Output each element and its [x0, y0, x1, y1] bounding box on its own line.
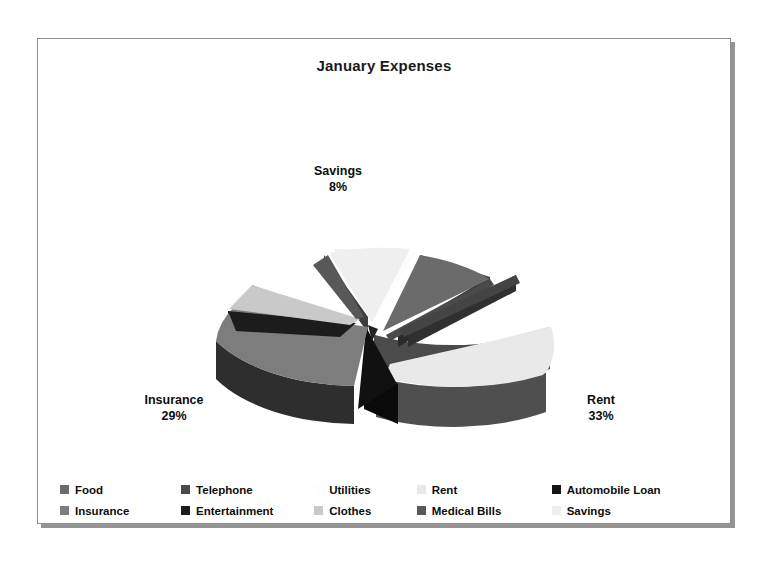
legend-swatch-icon [181, 485, 190, 494]
legend-label: Utilities [329, 484, 371, 496]
slice-label-savings: Savings 8% [283, 163, 393, 195]
legend-swatch-icon [417, 485, 426, 494]
legend-label: Insurance [75, 505, 129, 517]
legend-item-food[interactable]: Food [60, 484, 181, 496]
legend-label: Food [75, 484, 103, 496]
legend-swatch-icon [552, 485, 561, 494]
pie-chart-plot-area: Savings 8% Rent 33% Insurance 29% [38, 79, 730, 479]
legend-item-utilities[interactable]: Utilities [314, 484, 416, 496]
legend-swatch-icon [314, 485, 323, 494]
legend-item-savings[interactable]: Savings [552, 505, 710, 517]
legend-item-telephone[interactable]: Telephone [181, 484, 314, 496]
slice-label-savings-name: Savings [314, 164, 362, 178]
legend-label: Savings [567, 505, 611, 517]
legend-item-rent[interactable]: Rent [417, 484, 552, 496]
legend-label: Automobile Loan [567, 484, 661, 496]
legend-label: Telephone [196, 484, 253, 496]
legend-swatch-icon [417, 506, 426, 515]
slice-label-rent-percent: 33% [588, 409, 613, 423]
legend-item-automobile-loan[interactable]: Automobile Loan [552, 484, 710, 496]
legend-label: Rent [432, 484, 458, 496]
slice-label-insurance: Insurance 29% [114, 392, 234, 424]
legend-item-entertainment[interactable]: Entertainment [181, 505, 314, 517]
chart-frame: January Expenses [37, 38, 731, 524]
slice-label-savings-percent: 8% [329, 180, 347, 194]
legend-swatch-icon [552, 506, 561, 515]
legend-row: Insurance Entertainment Clothes Medical … [60, 500, 710, 521]
legend-item-medical-bills[interactable]: Medical Bills [417, 505, 552, 517]
legend-row: Food Telephone Utilities Rent Automobile… [60, 479, 710, 500]
legend-item-clothes[interactable]: Clothes [314, 505, 416, 517]
slice-label-insurance-name: Insurance [144, 393, 203, 407]
chart-title: January Expenses [38, 57, 730, 74]
legend-item-insurance[interactable]: Insurance [60, 505, 181, 517]
slice-label-rent-name: Rent [587, 393, 615, 407]
legend-swatch-icon [314, 506, 323, 515]
chart-legend: Food Telephone Utilities Rent Automobile… [60, 479, 710, 523]
legend-swatch-icon [60, 506, 69, 515]
legend-label: Medical Bills [432, 505, 502, 517]
legend-label: Entertainment [196, 505, 273, 517]
legend-swatch-icon [60, 485, 69, 494]
legend-label: Clothes [329, 505, 371, 517]
slice-label-rent: Rent 33% [561, 392, 641, 424]
legend-swatch-icon [181, 506, 190, 515]
slice-label-insurance-percent: 29% [161, 409, 186, 423]
